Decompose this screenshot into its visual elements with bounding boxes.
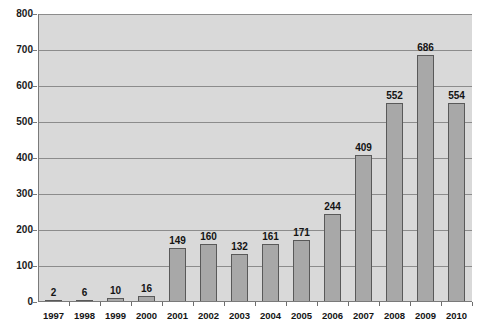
gridline [38,122,472,123]
gridline [38,14,472,15]
x-axis-tick-mark [162,302,163,306]
y-axis-tick-label: 100 [3,261,33,271]
bar-value-label: 552 [375,91,415,101]
gridline [38,266,472,267]
bar-value-label: 171 [282,228,322,238]
y-axis-tick-mark [33,230,37,231]
x-axis-tick-mark [472,302,473,306]
x-axis-tick-label: 2010 [435,311,479,321]
x-axis-tick-mark [441,302,442,306]
bar [355,155,372,302]
y-axis-tick-mark [33,50,37,51]
bar [231,254,248,302]
bar-value-label: 409 [344,143,384,153]
x-axis-tick-mark [255,302,256,306]
bar-value-label: 160 [189,232,229,242]
x-axis-tick-mark [100,302,101,306]
y-axis-tick-mark [33,14,37,15]
bar-value-label: 16 [127,284,167,294]
bar [386,103,403,302]
bar [448,103,465,302]
x-axis-tick-mark [69,302,70,306]
bar [262,244,279,302]
bar [200,244,217,302]
y-axis-tick-mark [33,302,37,303]
gridline [38,194,472,195]
gridline [38,86,472,87]
bar-chart: 0100200300400500600700800 19971998199920… [0,0,480,335]
y-axis-tick-label: 200 [3,225,33,235]
y-axis-tick-mark [33,158,37,159]
y-axis-tick-mark [33,266,37,267]
x-axis-tick-mark [317,302,318,306]
y-axis-tick-label: 600 [3,81,33,91]
x-axis-tick-mark [193,302,194,306]
y-axis-tick-label: 500 [3,117,33,127]
bar-value-label: 244 [313,202,353,212]
x-axis-tick-mark [379,302,380,306]
bar [169,248,186,302]
y-axis-labels: 0100200300400500600700800 [0,14,33,302]
bar [417,55,434,302]
y-axis-tick-mark [33,194,37,195]
x-axis-tick-mark [131,302,132,306]
x-axis-tick-mark [224,302,225,306]
gridline [38,158,472,159]
y-axis-tick-label: 800 [3,9,33,19]
x-axis-tick-mark [286,302,287,306]
plot-area [38,14,472,302]
bar [324,214,341,302]
y-axis-tick-label: 400 [3,153,33,163]
x-axis-tick-mark [348,302,349,306]
bar-value-label: 554 [437,91,477,101]
bar-value-label: 686 [406,43,446,53]
x-axis-tick-mark [410,302,411,306]
x-axis-labels: 1997199819992000200120022003200420052006… [38,311,472,327]
y-axis-tick-mark [33,122,37,123]
y-axis-tick-label: 300 [3,189,33,199]
x-axis-ticks [38,302,472,307]
bar [293,240,310,302]
bar-value-label: 132 [220,242,260,252]
y-axis-tick-mark [33,86,37,87]
y-axis-tick-label: 700 [3,45,33,55]
gridline [38,230,472,231]
y-axis-tick-label: 0 [3,297,33,307]
